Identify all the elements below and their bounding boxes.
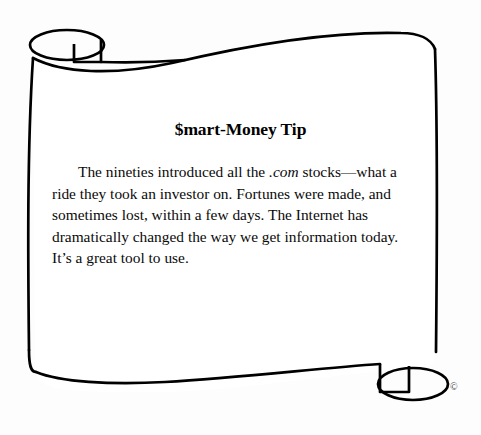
tip-body-italic-dotcom: .com <box>269 163 299 180</box>
page-title: $mart-Money Tip <box>0 119 481 140</box>
scroll-content: $mart-Money Tip The nineties introduced … <box>0 0 481 435</box>
tip-body-prefix: The nineties introduced all the <box>78 163 269 180</box>
scroll-illustration-page: $mart-Money Tip The nineties introduced … <box>0 0 481 435</box>
copyright-icon: © <box>450 381 458 392</box>
tip-body-text: The nineties introduced all the .com sto… <box>52 161 412 269</box>
